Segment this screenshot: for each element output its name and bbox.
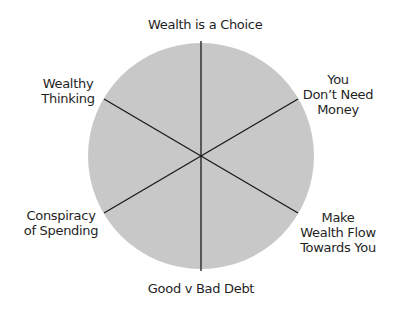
- label-wealth-is-a-choice: Wealth is a Choice: [148, 17, 254, 32]
- label-good-v-bad-debt: Good v Bad Debt: [146, 281, 256, 296]
- label-you-dont-need-money: You Don’t Need Money: [302, 72, 374, 117]
- label-line: Wealthy: [40, 76, 96, 91]
- wealth-wheel: [0, 0, 395, 309]
- label-line: You: [302, 72, 374, 87]
- label-line: Good v Bad Debt: [146, 281, 256, 296]
- label-conspiracy-of-spending: Conspiracy of Spending: [22, 208, 100, 238]
- label-make-wealth-flow: Make Wealth Flow Towards You: [298, 210, 378, 255]
- label-wealthy-thinking: Wealthy Thinking: [40, 76, 96, 106]
- label-line: Towards You: [298, 240, 378, 255]
- label-line: Don’t Need: [302, 87, 374, 102]
- label-line: Thinking: [40, 91, 96, 106]
- label-line: Wealth Flow: [298, 225, 378, 240]
- label-line: Wealth is a Choice: [148, 17, 254, 32]
- label-line: Money: [302, 102, 374, 117]
- label-line: Make: [298, 210, 378, 225]
- label-line: Conspiracy: [22, 208, 100, 223]
- label-line: of Spending: [22, 223, 100, 238]
